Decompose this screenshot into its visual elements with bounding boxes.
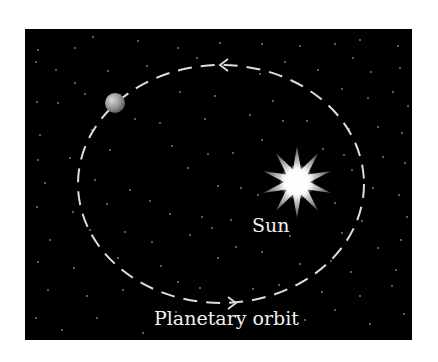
star xyxy=(261,139,263,141)
star xyxy=(304,319,306,321)
star xyxy=(406,216,408,218)
star xyxy=(96,317,98,319)
star xyxy=(382,156,384,158)
star xyxy=(257,194,259,196)
star xyxy=(36,206,38,208)
star xyxy=(261,251,263,253)
star xyxy=(35,61,37,63)
star xyxy=(392,91,394,93)
star xyxy=(39,134,41,136)
star xyxy=(249,114,251,116)
star xyxy=(72,211,74,213)
star xyxy=(400,239,402,241)
star xyxy=(49,239,51,241)
star xyxy=(177,281,179,283)
star xyxy=(196,57,198,59)
star xyxy=(334,43,336,45)
star xyxy=(403,313,405,315)
star xyxy=(321,291,323,293)
star xyxy=(322,148,324,150)
star xyxy=(129,189,131,191)
star xyxy=(235,246,237,248)
star xyxy=(377,126,379,128)
star xyxy=(37,159,39,161)
star xyxy=(214,95,216,97)
star xyxy=(177,47,179,49)
star xyxy=(89,229,91,231)
star xyxy=(204,118,206,120)
star xyxy=(361,220,363,222)
star xyxy=(124,231,126,233)
star xyxy=(377,247,379,249)
star xyxy=(282,120,284,122)
star xyxy=(92,36,94,38)
star xyxy=(86,295,88,297)
star xyxy=(217,185,219,187)
star xyxy=(107,70,109,72)
star xyxy=(367,97,369,99)
star xyxy=(55,69,57,71)
star xyxy=(278,284,280,286)
star xyxy=(211,227,213,229)
star xyxy=(334,309,336,311)
star xyxy=(391,285,393,287)
star xyxy=(61,329,63,331)
sun-core xyxy=(279,164,315,200)
star xyxy=(341,232,343,234)
star xyxy=(37,49,39,51)
star xyxy=(284,61,286,63)
star xyxy=(252,288,254,290)
star xyxy=(137,40,139,42)
space-background xyxy=(25,29,412,340)
orbit-label: Planetary orbit xyxy=(154,307,299,329)
star xyxy=(179,91,181,93)
star xyxy=(44,182,46,184)
star xyxy=(217,257,219,259)
star xyxy=(399,67,401,69)
star xyxy=(334,202,336,204)
star xyxy=(359,295,361,297)
star xyxy=(395,269,397,271)
star xyxy=(57,102,59,104)
star xyxy=(359,39,361,41)
star xyxy=(149,200,151,202)
star xyxy=(187,167,189,169)
planet-icon xyxy=(105,93,125,113)
star xyxy=(350,271,352,273)
star xyxy=(134,118,136,120)
star xyxy=(146,65,148,67)
star xyxy=(219,42,221,44)
star xyxy=(370,71,372,73)
star xyxy=(201,216,203,218)
star xyxy=(372,187,374,189)
star xyxy=(74,82,76,84)
star xyxy=(35,317,37,319)
star xyxy=(397,45,399,47)
star xyxy=(407,105,409,107)
star xyxy=(47,289,49,291)
star xyxy=(272,100,274,102)
star xyxy=(171,145,173,147)
star xyxy=(343,154,345,156)
star xyxy=(352,57,354,59)
star xyxy=(169,213,171,215)
star xyxy=(306,120,308,122)
star xyxy=(122,289,124,291)
star xyxy=(73,267,75,269)
star xyxy=(299,45,301,47)
star xyxy=(189,234,191,236)
star xyxy=(404,162,406,164)
star xyxy=(261,43,263,45)
star xyxy=(199,287,201,289)
star xyxy=(317,69,319,71)
star xyxy=(299,263,301,265)
orbit-diagram: Sun Planetary orbit xyxy=(0,0,438,362)
star xyxy=(69,157,71,159)
star xyxy=(117,257,119,259)
star xyxy=(401,132,403,134)
star xyxy=(74,47,76,49)
star xyxy=(94,179,96,181)
star xyxy=(230,219,232,221)
star xyxy=(109,149,111,151)
star xyxy=(37,261,39,263)
